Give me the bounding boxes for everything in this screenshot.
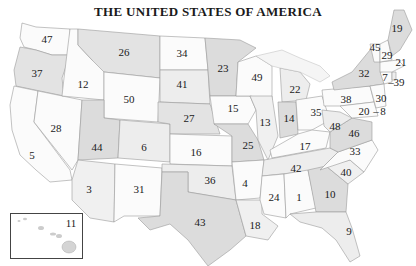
state-rank-label: 14 [284, 113, 295, 124]
state-rank-label: 9 [346, 226, 352, 237]
state-rank-label: 7 [382, 72, 388, 83]
state-rank-label: 50 [124, 94, 135, 105]
state-rank-label: 13 [260, 117, 271, 128]
leader-line: – [388, 77, 394, 88]
state-florida[interactable] [290, 212, 360, 262]
state-rank-label: 21 [396, 57, 407, 68]
state-rank-label: 4 [242, 178, 248, 189]
state-rank-label: 34 [177, 48, 188, 59]
state-rank-label: 47 [42, 34, 53, 45]
state-rank-label: 45 [370, 42, 381, 53]
state-rank-label: 29 [382, 50, 393, 61]
state-rank-label: 16 [191, 147, 202, 158]
state-rank-label: 24 [269, 192, 280, 203]
state-rank-label: 26 [119, 47, 130, 58]
state-rank-label: 42 [291, 163, 302, 174]
state-rank-label: 49 [252, 72, 263, 83]
state-rank-label: 46 [349, 128, 360, 139]
state-rank-label: 6 [141, 142, 147, 153]
state-rank-label: 28 [51, 123, 62, 134]
state-rank-label: 3 [86, 184, 92, 195]
state-rank-label: 25 [243, 140, 254, 151]
state-rank-label: 17 [300, 141, 311, 152]
state-rank-label: 22 [290, 84, 301, 95]
state-rank-label: 19 [392, 23, 403, 34]
state-rank-label: 37 [32, 68, 43, 79]
state-rank-label: 32 [359, 68, 370, 79]
state-rank-label: 11 [66, 218, 77, 229]
state-rank-label: 44 [92, 142, 103, 153]
state-rank-label: 35 [311, 107, 322, 118]
state-rank-label: 43 [195, 217, 206, 228]
state-rank-label: 5 [29, 150, 35, 161]
state-rank-label: 15 [228, 103, 239, 114]
state-rank-label: 1 [296, 192, 302, 203]
state-rank-label: 48 [330, 121, 341, 132]
state-rank-label: 18 [250, 220, 261, 231]
leader-line: – [373, 106, 379, 117]
state-rank-label: 41 [177, 79, 188, 90]
state-rank-label: 30 [376, 93, 387, 104]
state-rank-label: 12 [78, 79, 89, 90]
state-rank-label: 10 [325, 189, 336, 200]
state-rank-label: 8 [380, 106, 386, 117]
state-rank-label: 27 [184, 113, 195, 124]
state-rank-label: 31 [134, 184, 145, 195]
state-rank-label: 33 [350, 146, 361, 157]
state-rank-label: 36 [205, 175, 216, 186]
state-rank-label: 40 [341, 167, 352, 178]
state-rank-label: 20 [359, 106, 370, 117]
state-rank-label: 39 [394, 77, 405, 88]
state-rank-label: 38 [341, 94, 352, 105]
state-rank-label: 23 [218, 63, 229, 74]
